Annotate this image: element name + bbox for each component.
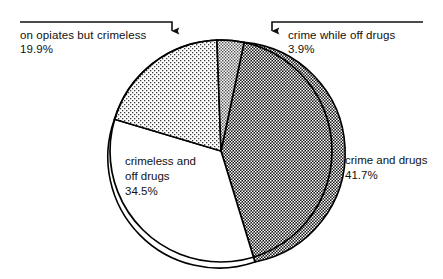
slice-label-crime-and-drugs-line1: crime and drugs [345, 153, 427, 168]
slice-label-crimeless-line2: off drugs [125, 169, 196, 184]
callout-opiates-label: on opiates but crimeless [20, 29, 146, 41]
callout-crime-while-off-drugs: crime while off drugs 3.9% [288, 28, 395, 56]
slice-label-crime-and-drugs: crime and drugs 41.7% [345, 153, 427, 183]
slice-label-crime-and-drugs-percent: 41.7% [345, 168, 427, 183]
callout-crime-off-drugs-label: crime while off drugs [288, 29, 395, 41]
callout-on-opiates-but-crimeless: on opiates but crimeless 19.9% [20, 28, 146, 56]
callout-opiates-percent: 19.9% [20, 42, 146, 56]
slice-label-crimeless-line1: crimeless and [125, 154, 196, 169]
slice-label-crimeless-and-off-drugs: crimeless and off drugs 34.5% [125, 154, 196, 199]
callout-crime-off-drugs-percent: 3.9% [288, 42, 395, 56]
pie-chart-figure: on opiates but crimeless 19.9% crime whi… [0, 0, 443, 279]
slice-label-crimeless-percent: 34.5% [125, 184, 196, 199]
